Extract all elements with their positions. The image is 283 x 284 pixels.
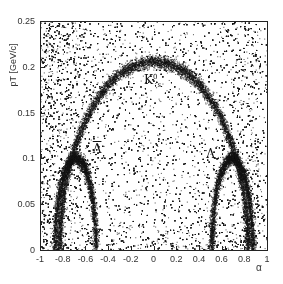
x-tick-label: 0.2 <box>164 254 188 264</box>
y-tick-label: 0.25 <box>3 16 35 26</box>
x-tick-mark <box>267 246 268 250</box>
x-tick-label: 0.8 <box>232 254 256 264</box>
x-axis-label: α <box>256 262 262 273</box>
annotation-k0s: K0s <box>144 73 161 89</box>
x-tick-mark <box>40 246 41 250</box>
x-tick-label: 0.6 <box>210 254 234 264</box>
x-tick-label: 0 <box>142 254 166 264</box>
x-tick-mark <box>176 246 177 250</box>
x-tick-label: -0.4 <box>96 254 120 264</box>
x-tick-label: 0.4 <box>187 254 211 264</box>
y-tick-label: 0.05 <box>3 199 35 209</box>
y-tick-mark <box>40 67 44 68</box>
y-tick-label: 0.15 <box>3 108 35 118</box>
annotation-lambda: Λ <box>206 147 215 161</box>
x-tick-mark <box>154 246 155 250</box>
x-tick-mark <box>131 246 132 250</box>
x-tick-mark <box>244 246 245 250</box>
y-tick-label: 0.1 <box>3 153 35 163</box>
y-tick-mark <box>40 158 44 159</box>
y-tick-mark <box>40 21 44 22</box>
y-tick-mark <box>40 250 44 251</box>
y-axis-label: pT [GeV/c] <box>8 30 18 100</box>
x-tick-mark <box>222 246 223 250</box>
x-tick-mark <box>63 246 64 250</box>
x-tick-mark <box>108 246 109 250</box>
x-tick-mark <box>199 246 200 250</box>
x-tick-label: -1 <box>28 254 52 264</box>
y-tick-mark <box>40 204 44 205</box>
x-tick-mark <box>85 246 86 250</box>
y-tick-mark <box>40 113 44 114</box>
x-tick-label: -0.8 <box>51 254 75 264</box>
x-tick-label: -0.2 <box>119 254 143 264</box>
scatter-plot-area <box>40 21 267 250</box>
x-tick-label: -0.6 <box>73 254 97 264</box>
annotation-anti-lambda: Λ <box>93 142 102 156</box>
